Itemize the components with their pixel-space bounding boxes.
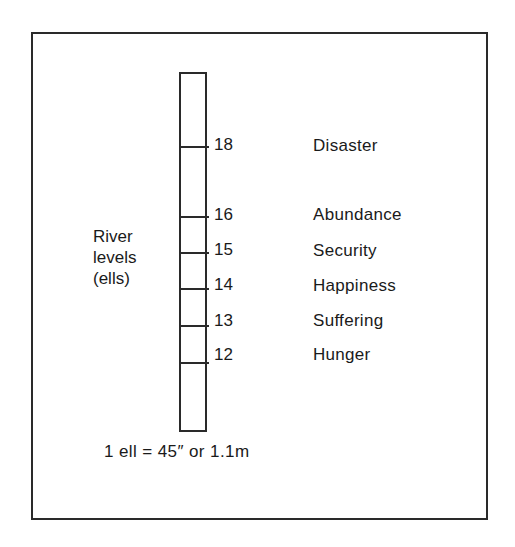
level-value: 18 <box>214 135 233 155</box>
tick-14 <box>179 288 209 290</box>
axis-title: River levels (ells) <box>93 226 136 289</box>
tick-18 <box>179 146 209 148</box>
level-meaning: Happiness <box>313 276 396 296</box>
level-meaning: Disaster <box>313 136 378 156</box>
level-value: 16 <box>214 205 233 225</box>
level-value: 14 <box>214 275 233 295</box>
axis-title-line-1: River <box>93 226 136 247</box>
tick-15 <box>179 252 209 254</box>
river-level-gauge <box>179 72 207 432</box>
unit-footnote: 1 ell = 45″ or 1.1m <box>104 442 249 462</box>
level-meaning: Abundance <box>313 205 402 225</box>
axis-title-line-2: levels <box>93 247 136 268</box>
level-meaning: Suffering <box>313 311 383 331</box>
tick-13 <box>179 325 209 327</box>
level-value: 15 <box>214 240 233 260</box>
level-value: 12 <box>214 345 233 365</box>
axis-title-line-3: (ells) <box>93 268 136 289</box>
tick-12 <box>179 362 209 364</box>
tick-16 <box>179 216 209 218</box>
level-meaning: Hunger <box>313 345 371 365</box>
level-value: 13 <box>214 311 233 331</box>
level-meaning: Security <box>313 241 377 261</box>
